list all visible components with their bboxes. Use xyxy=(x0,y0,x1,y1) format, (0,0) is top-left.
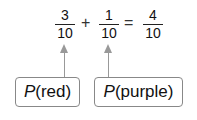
numerator: 4 xyxy=(143,8,163,23)
probability-symbol: P xyxy=(104,82,115,101)
fraction-term-2: 1 10 xyxy=(99,8,119,41)
probability-symbol: P xyxy=(24,82,35,101)
arrow-line-red xyxy=(64,52,65,77)
denominator: 10 xyxy=(55,26,75,41)
fraction-term-1: 3 10 xyxy=(55,8,75,41)
label-arg: (purple) xyxy=(115,82,174,101)
numerator: 3 xyxy=(55,8,75,23)
label-p-red: P(red) xyxy=(15,77,80,107)
label-arg: (red) xyxy=(35,82,71,101)
fraction-result: 4 10 xyxy=(143,8,163,41)
equals-operator: = xyxy=(124,14,133,32)
plus-operator: + xyxy=(81,14,90,32)
denominator: 10 xyxy=(99,26,119,41)
arrow-line-purple xyxy=(108,52,109,77)
denominator: 10 xyxy=(143,26,163,41)
numerator: 1 xyxy=(99,8,119,23)
label-p-purple: P(purple) xyxy=(94,77,183,107)
